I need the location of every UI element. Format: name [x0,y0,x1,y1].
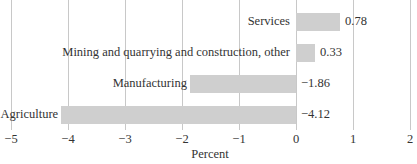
x-tick-label: −3 [118,132,131,147]
x-axis-label: Percent [191,147,228,162]
x-tick-label: −5 [4,132,17,147]
bar [190,75,296,93]
x-tick-label: −4 [61,132,74,147]
bar [61,106,296,124]
x-tick-label: 1 [350,132,356,147]
x-tick-label: −1 [232,132,245,147]
bar [296,13,340,31]
x-tick-label: 2 [407,132,413,147]
x-tick-label: −2 [175,132,188,147]
category-label: Manufacturing [113,76,187,91]
category-label: Mining and quarrying and construction, o… [62,45,290,60]
category-label: Services [248,14,290,29]
x-tick-label: 0 [293,132,299,147]
value-label: −4.12 [301,107,330,122]
gridline [410,0,411,130]
value-label: −1.86 [301,76,330,91]
category-label: Agriculture [1,107,59,122]
bar [296,44,315,62]
value-label: 0.33 [320,45,342,60]
value-label: 0.78 [345,14,367,29]
